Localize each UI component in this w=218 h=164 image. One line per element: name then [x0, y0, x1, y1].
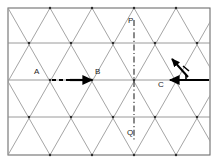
- lattice-figure: A B C P Q: [0, 0, 218, 164]
- figure-border: [8, 8, 210, 155]
- point-label-a: A: [34, 68, 39, 76]
- lattice-canvas: [0, 0, 218, 164]
- point-label-p: P: [128, 17, 133, 25]
- point-label-b: B: [95, 68, 100, 76]
- point-label-q: Q: [127, 129, 133, 137]
- point-label-c: C: [158, 81, 164, 89]
